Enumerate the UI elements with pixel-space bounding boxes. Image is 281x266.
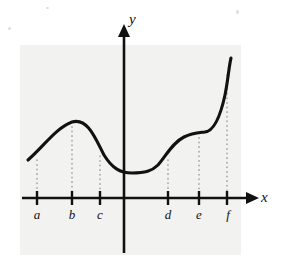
dotted-guides: [37, 75, 227, 194]
function-curve: [28, 58, 231, 173]
tick-label-d: d: [161, 208, 175, 221]
figure-canvas: y x a b c d e f: [0, 0, 281, 266]
tick-label-c: c: [93, 208, 107, 221]
scan-speck: [236, 10, 239, 14]
tick-label-b: b: [65, 208, 79, 221]
scan-speck: [8, 27, 11, 30]
x-axis-arrowhead: [246, 192, 259, 204]
tick-label-e: e: [192, 208, 206, 221]
scan-speck: [46, 7, 49, 9]
tick-label-f: f: [221, 208, 235, 221]
plot-svg: [0, 0, 281, 266]
x-axis-label: x: [261, 190, 268, 205]
y-axis-label: y: [129, 12, 136, 27]
tick-label-a: a: [30, 208, 44, 221]
